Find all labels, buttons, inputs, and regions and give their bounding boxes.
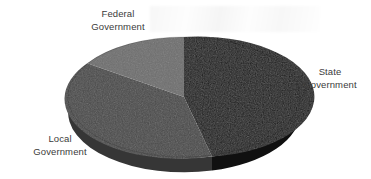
pie-label-state-line2: Government [294, 79, 366, 92]
pie-label-state-government: State Government [294, 66, 366, 91]
pie-label-local-line2: Government [6, 146, 114, 159]
pie-label-local-line1: Local [6, 133, 114, 146]
pie-chart-image: Federal Government State Government Loca… [0, 0, 371, 179]
pie-label-local-government: Local Government [6, 133, 114, 158]
pie-label-federal-line1: Federal [62, 8, 174, 21]
pie-label-federal-line2: Government [62, 21, 174, 34]
pie-label-state-line1: State [294, 66, 366, 79]
pie-slice-state-government[interactable] [184, 37, 314, 157]
pie-label-federal-government: Federal Government [62, 8, 174, 33]
